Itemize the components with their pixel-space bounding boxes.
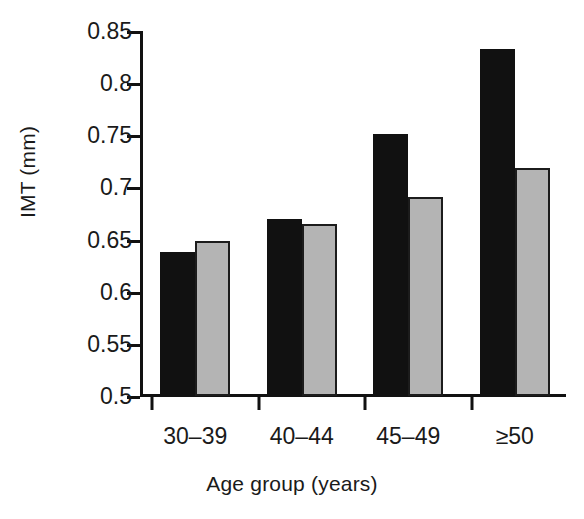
bar-black-40–44 xyxy=(267,219,302,396)
y-tick-label: 0.85 xyxy=(87,18,132,45)
y-tick-label: 0.55 xyxy=(87,330,132,357)
x-tick-mark xyxy=(364,396,367,410)
y-tick-label: 0.6 xyxy=(100,278,132,305)
x-tick-mark xyxy=(470,396,473,410)
bar-gray-40–44 xyxy=(302,224,337,396)
y-tick-label: 0.5 xyxy=(100,383,132,410)
x-tick-mark xyxy=(151,396,154,410)
y-axis-title: IMT (mm) xyxy=(16,82,40,262)
x-tick-label: 45–49 xyxy=(376,423,440,450)
y-tick-label: 0.75 xyxy=(87,122,132,149)
plot-area: 0.50.550.60.650.70.750.80.85 30–3940–444… xyxy=(140,31,566,396)
bar-chart-figure: IMT (mm) 0.50.550.60.650.70.750.80.85 30… xyxy=(0,0,584,519)
x-axis-title: Age group (years) xyxy=(0,472,584,496)
x-tick-label: ≥50 xyxy=(496,423,534,450)
x-tick-label: 30–39 xyxy=(163,423,227,450)
bar-gray-30–39 xyxy=(195,241,230,396)
y-tick-label: 0.65 xyxy=(87,226,132,253)
y-tick-label: 0.7 xyxy=(100,174,132,201)
y-tick-label: 0.8 xyxy=(100,70,132,97)
bar-gray-45–49 xyxy=(408,197,443,396)
bar-black-30–39 xyxy=(160,252,195,396)
x-tick-mark xyxy=(257,396,260,410)
bar-gray-≥50 xyxy=(515,168,550,396)
x-tick-label: 40–44 xyxy=(270,423,334,450)
bar-black-≥50 xyxy=(480,49,515,396)
bar-black-45–49 xyxy=(373,134,408,396)
